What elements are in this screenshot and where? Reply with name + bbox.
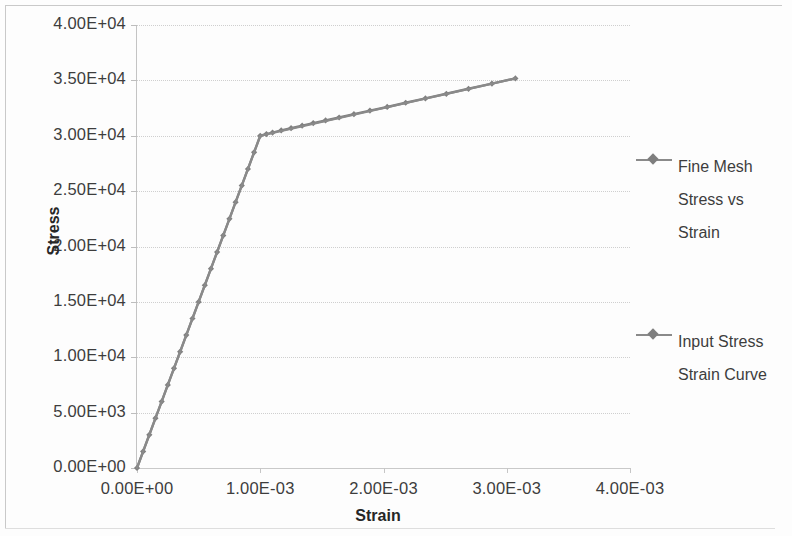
series-line: [137, 78, 515, 468]
legend-label: Fine MeshStress vsStrain: [678, 150, 792, 249]
chart-series-layer: [0, 0, 792, 536]
legend-label-line: Fine Mesh: [678, 150, 792, 183]
chart-series: [137, 78, 515, 468]
legend-marker-icon: [636, 334, 672, 336]
legend-label-line: Strain: [678, 216, 792, 249]
series-line: [137, 78, 515, 468]
chart-series: [134, 75, 519, 471]
legend-label-line: Input Stress: [678, 325, 792, 358]
legend-label-line: Stress vs: [678, 183, 792, 216]
legend-marker-icon: [636, 159, 672, 161]
stress-strain-chart-figure: 0.00E+005.00E+031.00E+041.50E+042.00E+04…: [0, 0, 792, 536]
legend-label: Input StressStrain Curve: [678, 325, 792, 391]
legend-label-line: Strain Curve: [678, 358, 792, 391]
